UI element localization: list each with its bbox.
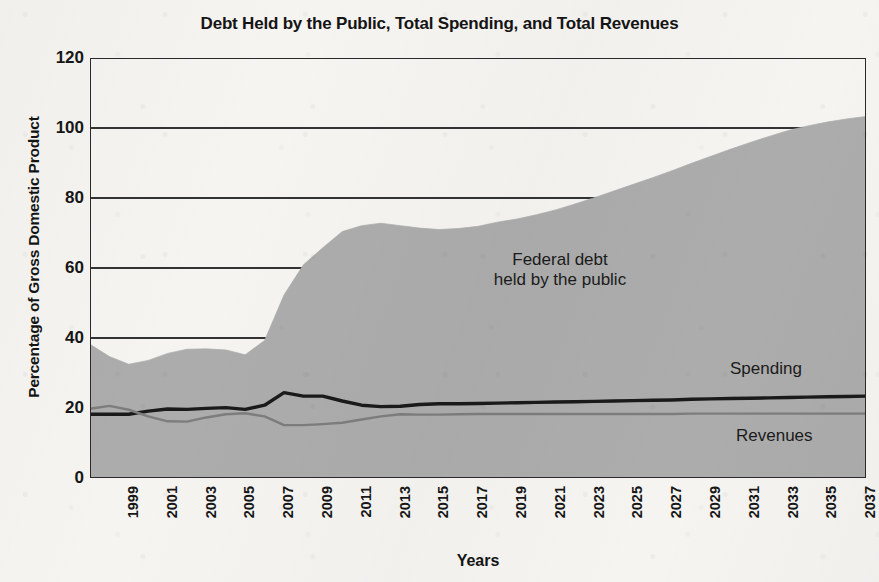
x-tick-label: 2009 xyxy=(320,486,335,546)
spending-annotation: Spending xyxy=(730,359,802,379)
x-tick-label: 2003 xyxy=(204,486,219,546)
x-tick-label: 2027 xyxy=(669,486,684,546)
y-tick-label: 60 xyxy=(38,259,84,276)
x-tick-label: 2033 xyxy=(786,486,801,546)
x-tick-label: 2019 xyxy=(514,486,529,546)
y-tick-label: 120 xyxy=(38,49,84,66)
x-axis-title: Years xyxy=(90,552,866,570)
x-tick-label: 2031 xyxy=(747,486,762,546)
x-tick-label: 1999 xyxy=(126,486,141,546)
federal-debt-annotation-line1: Federal debt xyxy=(456,250,664,270)
x-tick-label: 2011 xyxy=(359,486,374,546)
x-tick-label: 2029 xyxy=(708,486,723,546)
x-tick-label: 2021 xyxy=(553,486,568,546)
y-tick-label: 0 xyxy=(38,469,84,486)
x-tick-label: 2005 xyxy=(242,486,257,546)
x-tick-label: 2025 xyxy=(630,486,645,546)
y-tick-label: 20 xyxy=(38,399,84,416)
x-tick-label: 2013 xyxy=(398,486,413,546)
y-tick-label: 80 xyxy=(38,189,84,206)
x-tick-label: 2017 xyxy=(475,486,490,546)
y-tick-label: 100 xyxy=(38,119,84,136)
x-tick-label: 2001 xyxy=(165,486,180,546)
x-tick-label: 2037 xyxy=(863,486,878,546)
x-axis-tick-labels: 1999200120032005200720092011201320152017… xyxy=(90,486,866,548)
x-tick-label: 2035 xyxy=(824,486,839,546)
x-tick-label: 2015 xyxy=(436,486,451,546)
chart-title: Debt Held by the Public, Total Spending,… xyxy=(0,14,879,34)
revenues-annotation: Revenues xyxy=(736,426,813,446)
x-tick-label: 2023 xyxy=(592,486,607,546)
federal-debt-area xyxy=(90,116,866,478)
x-tick-label: 2007 xyxy=(281,486,296,546)
federal-debt-annotation: Federal debt held by the public xyxy=(456,250,664,290)
federal-debt-annotation-line2: held by the public xyxy=(456,270,664,290)
y-tick-label: 40 xyxy=(38,329,84,346)
